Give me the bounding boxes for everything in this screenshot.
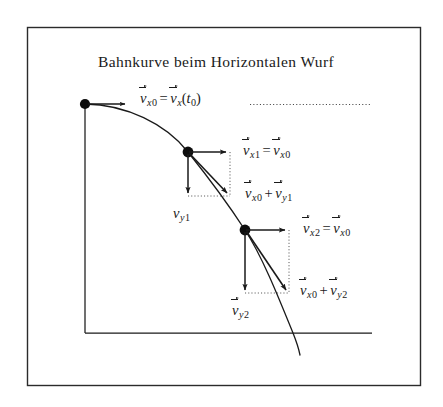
label-resultant2: vx0+vy2 (300, 283, 347, 300)
figure-title: Bahnkurve beim Horizontalen Wurf (98, 54, 334, 70)
label-resultant1: vx0+vy1 (245, 186, 292, 203)
label-vy1: vy1 (173, 206, 190, 223)
figure-root: Bahnkurve beim Horizontalen Wurf vx0=vx(… (0, 0, 443, 407)
outer-frame (28, 28, 421, 386)
resultant1-arrow (190, 154, 228, 194)
label-vy2: vy2 (232, 303, 249, 320)
label-vx0-initial: vx0=vx(t0) (140, 91, 201, 108)
label-vx2: vx2=vx0 (303, 221, 350, 238)
label-vx1: vx1=vx0 (243, 143, 290, 160)
resultant2-arrow (247, 232, 287, 291)
